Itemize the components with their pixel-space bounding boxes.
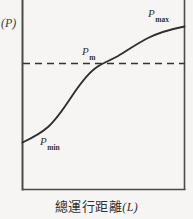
annotation-p-max: Pmax	[148, 8, 168, 22]
annotation-p-m: Pm	[82, 46, 95, 60]
y-axis-label: (P)	[1, 16, 16, 31]
annotation-p-min-subscript: min	[47, 143, 60, 152]
chart-canvas	[0, 0, 193, 219]
x-axis-caption-text: 總運行距離	[55, 199, 123, 214]
x-axis-caption: 總運行距離(L)	[0, 196, 193, 215]
annotation-p-min: Pmin	[40, 136, 59, 150]
data-curve	[23, 27, 185, 143]
annotation-p-max-symbol: P	[148, 7, 155, 19]
plot-frame	[23, 0, 186, 191]
figure-container: (P) Pmax Pm Pmin 總運行距離(L)	[0, 0, 193, 219]
annotation-p-max-subscript: max	[155, 15, 169, 24]
annotation-p-m-subscript: m	[89, 53, 95, 62]
x-axis-caption-variable: (L)	[122, 200, 138, 214]
annotation-p-m-symbol: P	[82, 45, 89, 57]
annotation-p-min-symbol: P	[40, 135, 47, 147]
